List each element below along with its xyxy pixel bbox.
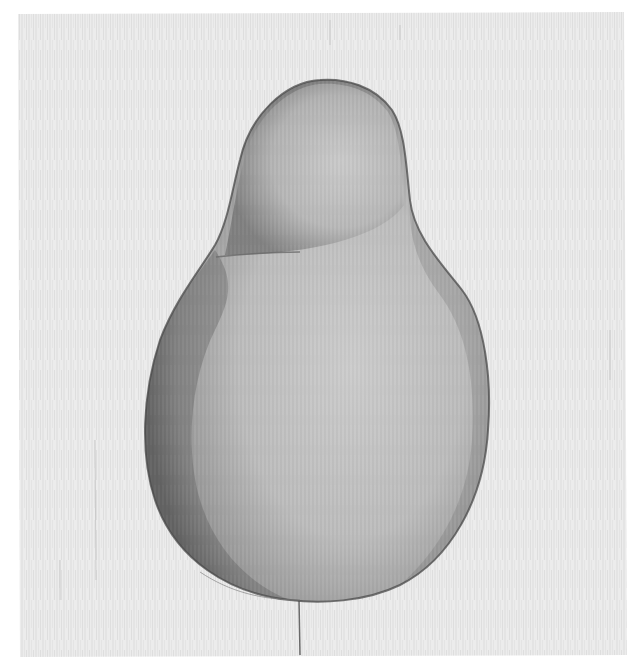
drop-line [299, 600, 300, 655]
pear-drawing [0, 0, 643, 664]
